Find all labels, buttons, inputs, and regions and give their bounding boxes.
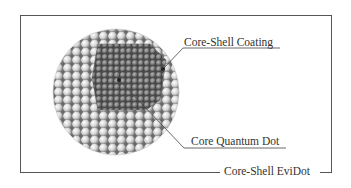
core-quantum-dot-label: Core Quantum Dot — [191, 135, 279, 148]
core-shell-coating-label: Core-Shell Coating — [184, 36, 273, 49]
coating-leader-line — [163, 48, 280, 69]
core-shell-evidot-title: Core-Shell EviDot — [224, 165, 310, 178]
core-cutaway — [92, 44, 166, 110]
nanoparticle-illustration — [0, 0, 351, 188]
